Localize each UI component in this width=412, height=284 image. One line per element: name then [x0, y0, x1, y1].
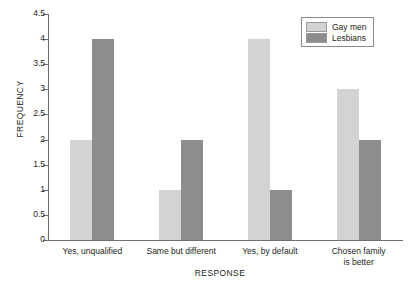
y-tick-label: 2 [40, 134, 45, 144]
legend-item-1: Lesbians [306, 32, 367, 43]
x-axis-title: RESPONSE [40, 268, 400, 278]
bar-group [337, 14, 381, 240]
category-label-line: Chosen family [299, 246, 412, 257]
plot-area: 00.511.522.533.544.5 Yes, unqualifiedSam… [48, 14, 403, 240]
bar-1-2 [270, 190, 292, 240]
y-axis-title: FREQUENCY [15, 49, 25, 169]
y-tick-label: 4.5 [33, 8, 45, 18]
y-tick-label: 3.5 [33, 58, 45, 68]
bar-chart-figure: FREQUENCY RESPONSE 00.511.522.533.544.5 … [0, 0, 412, 284]
category-label: Chosen familyis better [299, 246, 412, 267]
bar-group [70, 14, 114, 240]
x-axis-line [48, 240, 403, 241]
bar-1-1 [181, 140, 203, 240]
bar-1-3 [359, 140, 381, 240]
category-label-line: is better [299, 257, 412, 268]
legend-swatch [306, 33, 327, 43]
chart-legend: Gay menLesbians [301, 17, 374, 47]
y-tick-label: 1 [40, 184, 45, 194]
legend-label: Lesbians [332, 33, 366, 43]
y-tick-label: 0.5 [33, 209, 45, 219]
bar-group [159, 14, 203, 240]
y-tick-label: 4 [40, 33, 45, 43]
bar-1-0 [92, 39, 114, 240]
legend-item-0: Gay men [306, 21, 367, 32]
bar-0-3 [337, 89, 359, 240]
bar-group [248, 14, 292, 240]
y-tick-label: 0 [40, 234, 45, 244]
legend-swatch [306, 22, 327, 32]
y-tick-label: 1.5 [33, 159, 45, 169]
bar-0-2 [248, 39, 270, 240]
legend-label: Gay men [332, 22, 367, 32]
y-tick-label: 2.5 [33, 108, 45, 118]
bar-0-0 [70, 140, 92, 240]
y-axis-line [48, 14, 49, 241]
bar-0-1 [159, 190, 181, 240]
y-tick-label: 3 [40, 83, 45, 93]
